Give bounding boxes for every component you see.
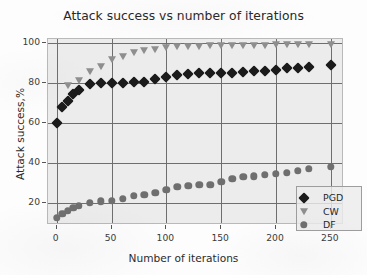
y-axis-tick-mark: [42, 42, 46, 43]
data-point-pgd: [183, 68, 194, 79]
gridline-vertical: [166, 39, 167, 223]
data-point-cw: [173, 44, 181, 51]
chart-title: Attack success vs number of iterations: [0, 9, 367, 23]
y-axis-tick-label: 100: [14, 36, 40, 47]
data-point-df: [119, 195, 126, 202]
data-point-pgd: [84, 78, 95, 89]
gridline-horizontal: [48, 83, 342, 84]
data-point-df: [174, 183, 181, 190]
x-axis-tick-mark: [56, 225, 57, 229]
diamond-icon: [298, 192, 309, 203]
data-point-cw: [119, 53, 127, 60]
data-point-df: [283, 169, 290, 176]
gridline-horizontal: [48, 43, 342, 44]
y-axis-tick-mark: [42, 122, 46, 123]
chart-legend: PGDCWDF: [296, 186, 362, 231]
x-axis-tick-label: 150: [203, 232, 237, 243]
data-point-df: [294, 167, 301, 174]
legend-label: PGD: [323, 192, 343, 203]
data-point-pgd: [172, 69, 183, 80]
x-axis-tick-label: 200: [258, 232, 292, 243]
triangle-down-icon: [300, 208, 308, 215]
data-point-cw: [184, 43, 192, 50]
data-point-df: [261, 171, 268, 178]
data-point-df: [207, 181, 214, 188]
x-axis-tick-mark: [165, 225, 166, 229]
data-point-df: [196, 181, 203, 188]
data-point-df: [141, 191, 148, 198]
x-axis-tick-label: 0: [39, 232, 73, 243]
x-axis-tick-mark: [111, 225, 112, 229]
gridline-vertical: [276, 39, 277, 223]
y-axis-label: Attack success,%: [14, 54, 26, 214]
data-point-pgd: [73, 84, 84, 95]
x-axis-tick-label: 50: [94, 232, 128, 243]
data-point-pgd: [227, 68, 238, 79]
legend-label: CW: [323, 206, 339, 217]
data-point-pgd: [248, 65, 259, 76]
data-point-pgd: [281, 62, 292, 73]
gridline-vertical: [221, 39, 222, 223]
x-axis-tick-label: 100: [148, 232, 182, 243]
data-point-cw: [151, 46, 159, 53]
data-point-df: [185, 182, 192, 189]
data-point-pgd: [68, 88, 79, 99]
data-point-df: [130, 192, 137, 199]
data-point-cw: [195, 43, 203, 50]
x-axis-tick-mark: [275, 225, 276, 229]
data-point-df: [228, 175, 235, 182]
gridline-vertical: [57, 39, 58, 223]
data-point-pgd: [237, 66, 248, 77]
y-axis-tick-mark: [42, 162, 46, 163]
x-axis-tick-label: 250: [313, 232, 347, 243]
legend-item-df: DF: [297, 217, 363, 232]
data-point-pgd: [259, 65, 270, 76]
data-point-pgd: [139, 76, 150, 87]
data-point-cw: [86, 68, 94, 75]
data-point-pgd: [292, 62, 303, 73]
data-point-df: [70, 204, 77, 211]
data-point-df: [152, 189, 159, 196]
gridline-horizontal: [48, 123, 342, 124]
data-point-pgd: [303, 61, 314, 72]
chart-figure: Attack success vs number of iterations 2…: [0, 0, 367, 275]
data-point-pgd: [205, 67, 216, 78]
data-point-df: [305, 165, 312, 172]
data-point-cw: [140, 47, 148, 54]
data-point-df: [64, 207, 71, 214]
data-point-pgd: [194, 68, 205, 79]
data-point-cw: [97, 63, 105, 70]
y-axis-tick-mark: [42, 202, 46, 203]
circle-icon: [300, 221, 307, 228]
data-point-df: [239, 173, 246, 180]
y-axis-tick-mark: [42, 82, 46, 83]
data-point-cw: [130, 49, 138, 56]
gridline-horizontal: [48, 163, 342, 164]
gridline-vertical: [112, 39, 113, 223]
data-point-pgd: [57, 101, 68, 112]
x-axis-tick-mark: [220, 225, 221, 229]
data-point-df: [59, 210, 66, 217]
data-point-df: [250, 173, 257, 180]
x-axis-label: Number of iterations: [0, 252, 367, 264]
data-point-pgd: [62, 95, 73, 106]
legend-label: DF: [323, 219, 336, 230]
